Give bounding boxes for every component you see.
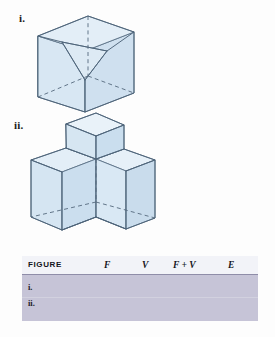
- table-body: i. ii.: [22, 275, 258, 321]
- table-row-divider: [22, 297, 258, 298]
- right-arm-right-end-face: [126, 160, 155, 229]
- table-row-label-ii: ii.: [28, 298, 35, 308]
- table-header-v: V: [142, 260, 148, 270]
- table-header-e: E: [228, 260, 234, 270]
- figure-ii-y-shaped-solid: [0, 112, 275, 247]
- table-header-f-plus-v: F + V: [173, 260, 196, 270]
- figure-data-table: FIGURE F V F + V E i. ii.: [22, 256, 258, 320]
- table-header-row: FIGURE F V F + V E: [22, 256, 258, 275]
- table-row-label-i: i.: [28, 282, 33, 292]
- table-header-figure: FIGURE: [28, 260, 62, 269]
- table-header-f: F: [104, 260, 110, 270]
- figure-i-cube-with-corner-cut: [0, 0, 275, 120]
